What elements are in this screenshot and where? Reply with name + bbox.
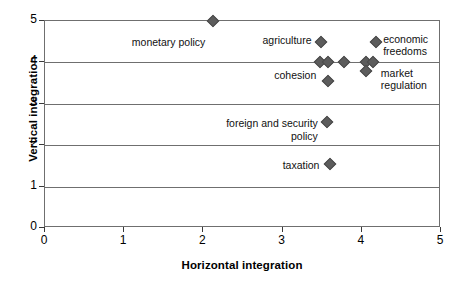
x-tick-label-2: 2: [187, 234, 217, 247]
gridline-y-1: [45, 187, 439, 188]
data-point-economic-freedoms: [370, 36, 383, 49]
annotation-cohesion: cohesion: [274, 69, 316, 82]
data-point-taxation: [324, 157, 337, 170]
x-axis-title: Horizontal integration: [44, 259, 440, 271]
data-point-foreign-and-security-policy: [321, 116, 334, 129]
x-tick-label-4: 4: [346, 234, 376, 247]
annotation-economic-freedoms: economic freedoms: [383, 33, 428, 58]
data-point-agriculture: [314, 36, 327, 49]
x-tick-mark-1: [123, 227, 124, 232]
data-point-monetary-policy: [207, 15, 220, 28]
annotation-market-regulation: market regulation: [381, 67, 427, 92]
x-tick-label-5: 5: [425, 234, 451, 247]
plot-area: monetary policyagricultureeconomic freed…: [44, 20, 440, 227]
y-tick-3: 3: [0, 96, 37, 108]
data-point-5: [338, 56, 351, 69]
x-tick-label-3: 3: [267, 234, 297, 247]
y-tick-label-1: 1: [7, 179, 37, 191]
gridline-y-4: [45, 62, 439, 63]
y-tick-label-0: 0: [7, 220, 37, 232]
y-tick-1: 1: [0, 179, 37, 191]
x-tick-mark-4: [361, 227, 362, 232]
y-tick-label-2: 2: [7, 137, 37, 149]
x-tick-mark-2: [202, 227, 203, 232]
annotation-agriculture: agriculture: [262, 34, 311, 47]
y-tick-label-3: 3: [7, 96, 37, 108]
gridline-y-2: [45, 145, 439, 146]
data-point-cohesion: [321, 75, 334, 88]
y-tick-5: 5: [0, 13, 37, 25]
y-tick-0: 0: [0, 220, 37, 232]
y-tick-4: 4: [0, 54, 37, 66]
y-tick-label-5: 5: [7, 13, 37, 25]
x-tick-mark-3: [282, 227, 283, 232]
x-tick-label-1: 1: [108, 234, 138, 247]
scatter-chart-figure: Vertical integration 012345 monetary pol…: [0, 0, 451, 284]
gridline-y-3: [45, 104, 439, 105]
x-tick-mark-5: [440, 227, 441, 232]
annotation-foreign-and-security-policy: foreign and security policy: [226, 117, 318, 142]
y-tick-label-4: 4: [7, 54, 37, 66]
annotation-monetary-policy: monetary policy: [132, 36, 206, 49]
y-tick-2: 2: [0, 137, 37, 149]
x-tick-label-0: 0: [29, 234, 59, 247]
annotation-taxation: taxation: [283, 159, 320, 172]
x-tick-mark-0: [44, 227, 45, 232]
